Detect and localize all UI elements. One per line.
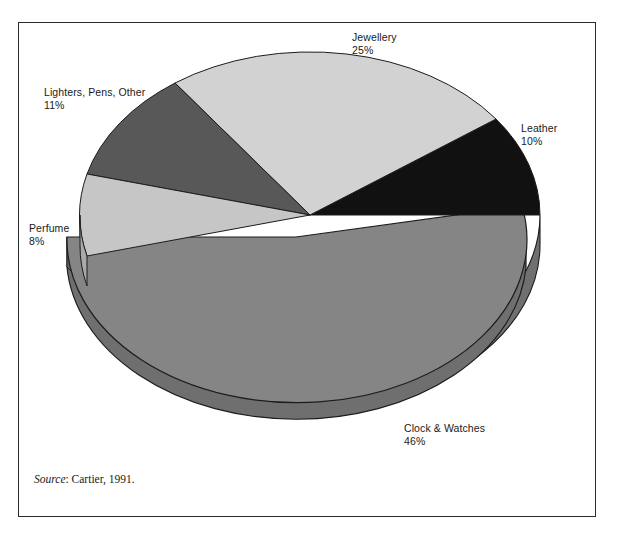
slice-label-clock-watches: Clock & Watches 46% bbox=[404, 422, 485, 447]
slice-label-clock-watches-value: 46% bbox=[404, 435, 485, 448]
slice-label-perfume-name: Perfume bbox=[29, 222, 69, 234]
slice-label-clock-watches-name: Clock & Watches bbox=[404, 422, 485, 434]
source-note: Source: Cartier, 1991. bbox=[34, 473, 135, 485]
slice-label-lighters-pens-other-value: 11% bbox=[44, 99, 145, 112]
slice-label-lighters-pens-other-name: Lighters, Pens, Other bbox=[44, 86, 145, 98]
slice-label-perfume-value: 8% bbox=[29, 235, 69, 248]
slice-label-leather-value: 10% bbox=[521, 135, 557, 148]
slice-label-jewellery: Jewellery 25% bbox=[352, 31, 397, 56]
slice-label-leather-name: Leather bbox=[521, 122, 557, 134]
figure-container: Jewellery 25% Lighters, Pens, Other 11% … bbox=[0, 0, 617, 539]
slice-label-jewellery-value: 25% bbox=[352, 44, 397, 57]
source-note-label: Source bbox=[34, 473, 66, 485]
slice-label-jewellery-name: Jewellery bbox=[352, 31, 397, 43]
slice-label-leather: Leather 10% bbox=[521, 122, 557, 147]
slice-label-perfume: Perfume 8% bbox=[29, 222, 69, 247]
slice-label-lighters-pens-other: Lighters, Pens, Other 11% bbox=[44, 86, 145, 111]
source-note-citation: Cartier, 1991. bbox=[72, 473, 135, 485]
